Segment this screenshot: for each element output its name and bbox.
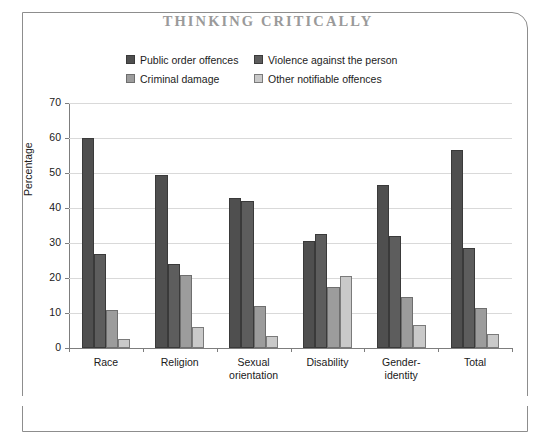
- bar: [487, 334, 499, 348]
- y-tick-mark: [65, 313, 69, 314]
- chart-legend: Public order offencesViolence against th…: [126, 50, 426, 88]
- y-tick-mark: [65, 103, 69, 104]
- y-axis-label: Percentage: [22, 142, 34, 196]
- bar: [389, 236, 401, 348]
- bar: [168, 264, 180, 348]
- y-tick-mark: [65, 208, 69, 209]
- chart-plot-area: 010203040506070RaceReligionSexual orient…: [69, 103, 512, 348]
- bar: [413, 325, 425, 348]
- x-tick-mark: [291, 348, 292, 352]
- bar: [475, 308, 487, 348]
- legend-item-label: Other notifiable offences: [268, 73, 382, 85]
- bar: [241, 201, 253, 348]
- y-tick-label: 60: [37, 131, 61, 143]
- bar: [180, 275, 192, 349]
- gridline: [69, 243, 512, 244]
- bar: [254, 306, 266, 348]
- y-tick-label: 20: [37, 271, 61, 283]
- bar: [327, 287, 339, 348]
- x-tick-label: Sexual orientation: [217, 356, 291, 382]
- legend-swatch-icon: [254, 74, 263, 83]
- bar: [106, 310, 118, 349]
- y-tick-mark: [65, 243, 69, 244]
- y-tick-label: 30: [37, 236, 61, 248]
- frame-bottom-mask: [0, 396, 536, 406]
- x-tick-mark: [69, 348, 70, 352]
- legend-item: Criminal damage: [126, 73, 254, 85]
- bar: [401, 297, 413, 348]
- gridline: [69, 173, 512, 174]
- gridline: [69, 313, 512, 314]
- bar: [377, 185, 389, 348]
- y-tick-label: 70: [37, 96, 61, 108]
- legend-item: Violence against the person: [254, 54, 426, 66]
- legend-item-label: Public order offences: [140, 54, 238, 66]
- legend-swatch-icon: [254, 55, 263, 64]
- x-tick-label: Gender- identity: [364, 356, 438, 382]
- x-tick-label: Total: [438, 356, 512, 369]
- gridline: [69, 278, 512, 279]
- bar: [315, 234, 327, 348]
- legend-swatch-icon: [126, 55, 135, 64]
- legend-item-label: Violence against the person: [268, 54, 397, 66]
- gridline: [69, 208, 512, 209]
- bar: [229, 198, 241, 349]
- x-tick-mark: [217, 348, 218, 352]
- x-tick-mark: [143, 348, 144, 352]
- y-tick-mark: [65, 278, 69, 279]
- y-tick-mark: [65, 138, 69, 139]
- x-tick-mark: [438, 348, 439, 352]
- bar: [303, 241, 315, 348]
- y-tick-label: 40: [37, 201, 61, 213]
- legend-swatch-icon: [126, 74, 135, 83]
- legend-item: Other notifiable offences: [254, 73, 426, 85]
- gridline: [69, 103, 512, 104]
- legend-item: Public order offences: [126, 54, 254, 66]
- y-tick-mark: [65, 173, 69, 174]
- x-tick-mark: [512, 348, 513, 352]
- bar: [82, 138, 94, 348]
- bar: [192, 327, 204, 348]
- y-tick-label: 50: [37, 166, 61, 178]
- y-tick-label: 0: [37, 341, 61, 353]
- gridline: [69, 138, 512, 139]
- bar: [451, 150, 463, 348]
- x-tick-label: Race: [69, 356, 143, 369]
- bar: [94, 254, 106, 349]
- y-tick-label: 10: [37, 306, 61, 318]
- bar: [118, 339, 130, 348]
- page-title: THINKING CRITICALLY: [0, 13, 536, 30]
- bar: [155, 175, 167, 348]
- x-tick-mark: [364, 348, 365, 352]
- bar: [340, 276, 352, 348]
- legend-item-label: Criminal damage: [140, 73, 219, 85]
- x-tick-label: Religion: [143, 356, 217, 369]
- y-axis-line: [69, 103, 70, 348]
- bar: [463, 248, 475, 348]
- bar: [266, 336, 278, 348]
- x-tick-label: Disability: [291, 356, 365, 369]
